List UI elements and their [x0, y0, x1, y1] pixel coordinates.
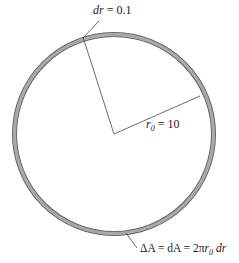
- area-leader-line: [126, 233, 137, 248]
- dr-label: dr = 0.1: [93, 3, 131, 18]
- r0-label: r0 = 10: [146, 117, 179, 133]
- area-label: ΔA = dA = 2πr0 dr: [140, 242, 226, 257]
- annulus-figure: [0, 0, 239, 263]
- dr-radius-line: [83, 37, 114, 134]
- diagram-canvas: dr = 0.1 r0 = 10 ΔA = dA = 2πr0 dr: [0, 0, 239, 263]
